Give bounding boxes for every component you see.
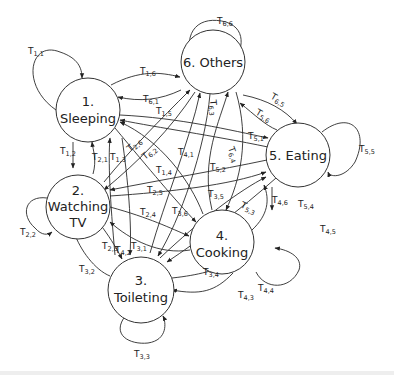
bottom-divider (0, 371, 394, 375)
node-toileting: 3. Toileting (108, 257, 174, 323)
label-t53: T5,3 (237, 199, 257, 217)
node-eating: 5. Eating (266, 123, 330, 187)
node-others: 6. Others (181, 30, 245, 94)
edge-t44 (256, 248, 300, 285)
label-t55: T5,5 (358, 144, 375, 156)
label-t33: T3,3 (133, 349, 150, 361)
svg-text:Watching: Watching (48, 199, 109, 214)
svg-text:Toileting: Toileting (113, 290, 168, 305)
state-transition-diagram: 1. Sleeping 6. Others 5. Eating 2. Watch… (0, 0, 394, 375)
label-t11: T1,1 (27, 46, 44, 58)
svg-text:3.: 3. (135, 273, 147, 288)
label-t32: T3,2 (78, 264, 95, 276)
edge-t41 (120, 122, 203, 214)
label-t51: T5,1 (247, 131, 264, 143)
label-t15: T1,5 (155, 106, 172, 118)
label-t22: T2,2 (19, 227, 36, 239)
label-t61: T6,1 (142, 94, 159, 106)
edge-t42 (110, 222, 190, 251)
label-t13: T1,3 (109, 152, 126, 164)
label-t65: T6,5 (267, 91, 288, 110)
label-t43: T4,3 (237, 290, 254, 302)
svg-text:2.: 2. (72, 183, 84, 198)
node-watching-tv: 2. Watching TV (46, 175, 110, 239)
svg-text:Cooking: Cooking (196, 245, 249, 260)
label-t25: T2,5 (146, 185, 163, 197)
label-t64: T6,4 (224, 144, 241, 164)
label-t54: T5,4 (297, 199, 314, 211)
label-t56: T5,6 (252, 107, 273, 126)
svg-text:TV: TV (69, 215, 87, 230)
label-t63: T6,3 (206, 98, 219, 116)
label-t36: T3,6 (171, 206, 188, 218)
label-t31: T3,1 (130, 241, 147, 253)
svg-text:Sleeping: Sleeping (60, 111, 116, 126)
label-t45: T4,5 (319, 224, 336, 236)
label-t66: T6,6 (216, 16, 233, 28)
node-cooking: 4. Cooking (190, 210, 254, 274)
label-t41: T4,1 (177, 147, 194, 159)
node-sleeping: 1. Sleeping (56, 78, 120, 142)
svg-text:6. Others: 6. Others (183, 55, 243, 70)
label-t21: T2,1 (91, 152, 108, 164)
svg-text:1.: 1. (82, 94, 94, 109)
label-t16: T1,6 (139, 66, 156, 78)
label-t23: T2,3 (101, 241, 118, 253)
label-t46: T4,6 (271, 195, 288, 207)
label-t14: T1,4 (155, 165, 172, 177)
label-t52: T5,2 (209, 162, 226, 174)
svg-text:4.: 4. (216, 228, 228, 243)
svg-text:5. Eating: 5. Eating (269, 148, 327, 163)
